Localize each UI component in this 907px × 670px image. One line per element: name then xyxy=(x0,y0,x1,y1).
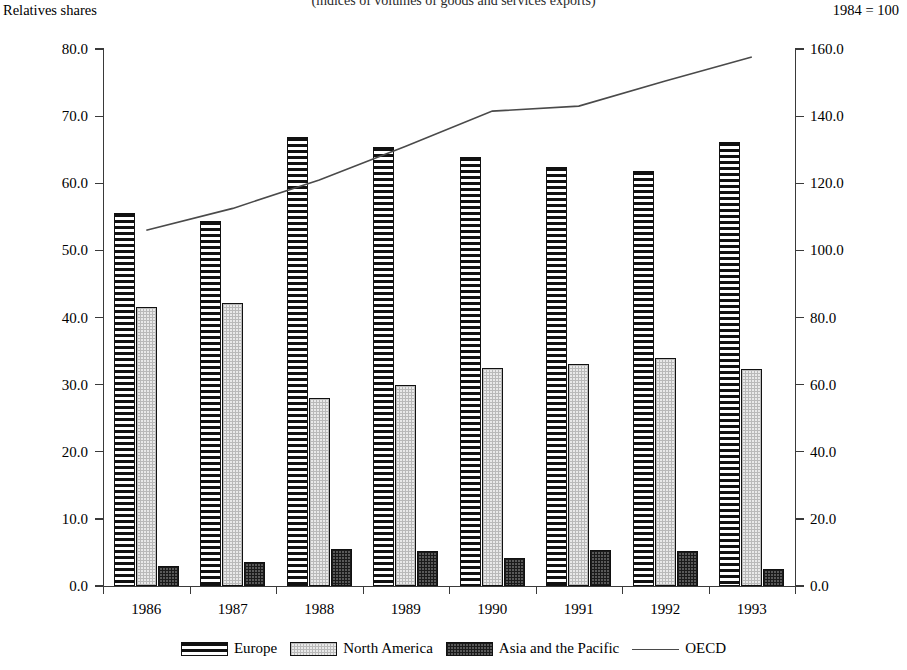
x-tick-mark xyxy=(622,586,623,594)
legend-label: Europe xyxy=(234,640,277,657)
legend-item: Asia and the Pacific xyxy=(446,640,619,657)
right-tick-label: 120.0 xyxy=(810,175,844,192)
legend-label: North America xyxy=(343,640,433,657)
x-tick-label: 1986 xyxy=(131,601,161,618)
x-tick-mark xyxy=(536,586,537,594)
x-tick-mark xyxy=(190,586,191,594)
left-tick-label: 50.0 xyxy=(62,242,88,259)
right-tick-mark xyxy=(795,451,804,452)
x-tick-label: 1992 xyxy=(650,601,680,618)
left-axis-title: Relatives shares xyxy=(3,2,97,19)
horizontal-stripe-swatch xyxy=(181,642,228,656)
right-tick-label: 100.0 xyxy=(810,242,844,259)
right-tick-mark xyxy=(795,250,804,251)
x-tick-label: 1989 xyxy=(391,601,421,618)
x-tick-label: 1988 xyxy=(304,601,334,618)
right-tick-label: 20.0 xyxy=(810,510,836,527)
x-tick-mark xyxy=(103,586,104,594)
right-tick-label: 80.0 xyxy=(810,309,836,326)
x-tick-mark xyxy=(449,586,450,594)
legend-label: Asia and the Pacific xyxy=(499,640,619,657)
line-swatch xyxy=(632,642,679,656)
left-tick-label: 70.0 xyxy=(62,108,88,125)
x-tick-mark xyxy=(363,586,364,594)
x-tick-mark xyxy=(709,586,710,594)
right-tick-mark xyxy=(795,48,804,49)
x-tick-mark xyxy=(276,586,277,594)
left-tick-label: 0.0 xyxy=(69,578,88,595)
right-tick-label: 140.0 xyxy=(810,108,844,125)
right-tick-mark xyxy=(795,317,804,318)
chart-legend: EuropeNorth AmericaAsia and the PacificO… xyxy=(0,640,907,657)
left-tick-label: 40.0 xyxy=(62,309,88,326)
right-tick-label: 160.0 xyxy=(810,41,844,58)
legend-label: OECD xyxy=(685,640,726,657)
left-tick-label: 10.0 xyxy=(62,510,88,527)
right-axis-title: 1984 = 100 xyxy=(833,2,899,19)
right-tick-mark xyxy=(795,183,804,184)
right-tick-label: 60.0 xyxy=(810,376,836,393)
dark-dotted-swatch xyxy=(446,642,493,656)
left-tick-label: 20.0 xyxy=(62,443,88,460)
legend-item: Europe xyxy=(181,640,277,657)
right-tick-mark xyxy=(795,384,804,385)
right-tick-label: 0.0 xyxy=(810,578,829,595)
oecd-line-chart xyxy=(103,49,795,586)
plot-area xyxy=(103,49,795,586)
oecd-line-path xyxy=(146,57,752,230)
x-tick-label: 1987 xyxy=(218,601,248,618)
x-tick-label: 1990 xyxy=(477,601,507,618)
chart-subtitle: (indices of volumes of goods and service… xyxy=(0,0,907,9)
left-tick-label: 80.0 xyxy=(62,41,88,58)
x-tick-label: 1993 xyxy=(737,601,767,618)
x-tick-label: 1991 xyxy=(564,601,594,618)
light-dotted-swatch xyxy=(290,642,337,656)
right-tick-mark xyxy=(795,518,804,519)
right-tick-label: 40.0 xyxy=(810,443,836,460)
legend-item: OECD xyxy=(632,640,726,657)
legend-item: North America xyxy=(290,640,433,657)
right-tick-mark xyxy=(795,585,804,586)
x-tick-mark xyxy=(795,586,796,594)
right-tick-mark xyxy=(795,116,804,117)
left-tick-label: 60.0 xyxy=(62,175,88,192)
left-tick-label: 30.0 xyxy=(62,376,88,393)
chart-container: (indices of volumes of goods and service… xyxy=(0,0,907,670)
